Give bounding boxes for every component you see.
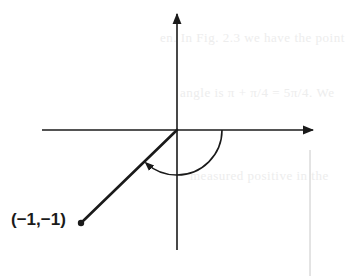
angle-arc xyxy=(146,130,222,175)
vector-ray xyxy=(82,130,177,222)
point-label: (−1,−1) xyxy=(11,210,66,230)
point-dot xyxy=(78,220,84,226)
